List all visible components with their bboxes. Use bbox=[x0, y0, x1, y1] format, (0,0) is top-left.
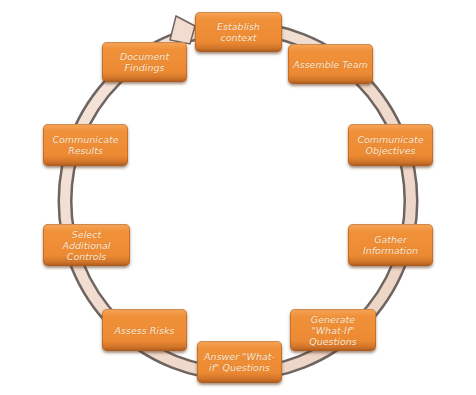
step-label: Assess Risks bbox=[115, 325, 175, 336]
step-label: Establish context bbox=[199, 21, 278, 43]
step-label: Communicate Objectives bbox=[352, 134, 429, 156]
step-assemble-team: Assemble Team bbox=[288, 44, 373, 84]
step-select-additional-controls: Select Additional Controls bbox=[43, 224, 130, 266]
step-label: Communicate Results bbox=[47, 134, 124, 156]
step-label: Gather Information bbox=[352, 234, 429, 256]
step-document-findings: Document Findings bbox=[102, 42, 187, 82]
step-label: Document Findings bbox=[106, 51, 183, 73]
step-label: Select Additional Controls bbox=[47, 229, 126, 262]
step-generate-what-if-questions: Generate "What-If" Questions bbox=[290, 309, 376, 351]
step-communicate-objectives: Communicate Objectives bbox=[348, 124, 433, 166]
arrow-head-icon bbox=[170, 16, 195, 44]
cycle-ring bbox=[0, 0, 476, 395]
step-gather-information: Gather Information bbox=[348, 224, 433, 266]
step-answer-what-if-questions: Answer "What-if" Questions bbox=[197, 341, 282, 383]
step-assess-risks: Assess Risks bbox=[102, 309, 187, 351]
step-establish-context: Establish context bbox=[195, 12, 282, 52]
step-label: Answer "What-if" Questions bbox=[201, 351, 278, 373]
step-label: Generate "What-If" Questions bbox=[294, 314, 372, 347]
step-label: Assemble Team bbox=[293, 59, 368, 70]
step-communicate-results: Communicate Results bbox=[43, 124, 128, 166]
